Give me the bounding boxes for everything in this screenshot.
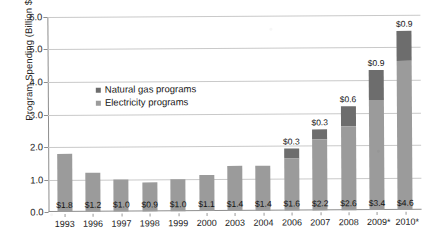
bar-column[interactable]: $1.8 (53, 17, 74, 212)
x-tick-mark (320, 212, 321, 215)
bar-segment-electricity[interactable]: $0.9 (142, 182, 157, 211)
bar-segment-electricity[interactable]: $1.2 (85, 173, 100, 212)
bar-segment-electricity[interactable]: $1.0 (170, 179, 185, 212)
x-tick-mark (349, 212, 350, 215)
bar-column[interactable]: $0.9$3.4 (366, 15, 387, 210)
bar-value-label-electricity: $1.8 (56, 200, 73, 209)
x-tick-mark (292, 213, 293, 216)
x-tick-label: 2006 (282, 212, 302, 234)
bar-segment-electricity[interactable]: $1.6 (284, 158, 299, 210)
bar-value-label-electricity: $0.9 (141, 200, 158, 209)
bar-value-label-electricity: $1.4 (227, 199, 244, 208)
x-tick-label: 2003 (225, 213, 245, 235)
x-axis-labels: 1993199619971998199920002003200420062007… (49, 212, 422, 236)
bar-column[interactable]: $0.3$1.6 (281, 15, 302, 210)
y-tick-label: 5.0 (29, 45, 42, 55)
bar-segment-electricity[interactable]: $3.4 (369, 99, 385, 210)
bar-value-label-electricity: $3.4 (369, 198, 386, 207)
legend-label: Natural gas programs (105, 84, 196, 95)
x-tick-mark (405, 212, 406, 215)
bar-segment-natural-gas[interactable]: $0.6 (340, 106, 355, 126)
plot-area: 0.01.02.03.04.05.06.0 $1.8$1.2$1.0$0.9$1… (47, 15, 421, 212)
bar-value-label-natural-gas: $0.9 (396, 20, 413, 29)
bar-value-label-natural-gas: $0.3 (311, 118, 328, 127)
x-tick-label: 2004 (253, 213, 273, 235)
bar-column[interactable]: $0.9$4.6 (394, 15, 415, 210)
bar-column[interactable]: $0.9 (139, 16, 160, 211)
bar-value-label-electricity: $1.1 (198, 200, 215, 209)
bar-segment-electricity[interactable]: $2.2 (312, 139, 327, 211)
bar-value-label-electricity: $1.0 (113, 200, 130, 209)
bar-column[interactable]: $1.2 (82, 17, 103, 212)
legend-item[interactable]: Electricity programs (96, 97, 196, 109)
x-tick-mark (178, 213, 179, 216)
legend-swatch-icon (96, 88, 101, 93)
x-tick-label: 1993 (55, 214, 75, 236)
y-tick-label: 2.0 (30, 142, 43, 152)
y-tick-label: 3.0 (30, 110, 43, 120)
bar-segment-electricity[interactable]: $2.6 (341, 126, 357, 211)
bar-column[interactable]: $1.0 (167, 16, 188, 211)
x-tick-label: 2000 (197, 213, 217, 235)
x-tick-mark (235, 213, 236, 216)
chart-legend: Natural gas programsElectricity programs (96, 84, 197, 108)
x-tick-mark (150, 213, 151, 216)
bar-value-label-electricity: $4.6 (397, 198, 414, 207)
legend-swatch-icon (96, 101, 101, 106)
bar-segment-electricity[interactable]: $1.4 (227, 165, 242, 211)
bar-column[interactable]: $0.6$2.6 (337, 15, 358, 210)
x-tick-mark (377, 212, 378, 215)
bar-segment-electricity[interactable]: $4.6 (397, 60, 413, 210)
bar-column[interactable]: $1.0 (110, 17, 131, 212)
x-tick-label: 1996 (83, 214, 103, 236)
x-tick-mark (263, 213, 264, 216)
y-tick-label: 6.0 (29, 12, 42, 22)
bar-value-label-electricity: $1.2 (85, 200, 102, 209)
bar-value-label-electricity: $2.6 (340, 199, 357, 208)
bar-segment-electricity[interactable]: $1.4 (256, 165, 271, 211)
x-tick-label: 2008 (339, 212, 359, 234)
x-tick-label: 2009* (367, 212, 387, 234)
legend-label: Electricity programs (105, 97, 188, 108)
bar-column[interactable]: $0.3$2.2 (309, 15, 330, 210)
x-tick-mark (93, 214, 94, 217)
y-tick-label: 0.0 (30, 207, 43, 217)
bar-value-label-natural-gas: $0.3 (283, 138, 300, 147)
x-tick-mark (65, 214, 66, 217)
bar-series-group: $1.8$1.2$1.0$0.9$1.0$1.1$1.4$1.4$0.3$1.6… (47, 15, 421, 212)
y-tick-label: 1.0 (30, 175, 43, 185)
legend-item[interactable]: Natural gas programs (96, 84, 196, 96)
bar-value-label-electricity: $1.6 (283, 199, 300, 208)
x-tick-label: 2010* (395, 212, 415, 234)
bar-segment-natural-gas[interactable]: $0.3 (312, 129, 327, 139)
bar-segment-electricity[interactable]: $1.0 (114, 179, 129, 212)
bar-value-label-natural-gas: $0.9 (368, 59, 385, 68)
bar-value-label-electricity: $1.4 (255, 199, 272, 208)
y-tick-label: 4.0 (30, 77, 43, 87)
x-tick-label: 1998 (140, 213, 160, 235)
bar-segment-electricity[interactable]: $1.1 (199, 175, 214, 211)
bar-column[interactable]: $1.4 (252, 16, 273, 211)
bar-value-label-electricity: $2.2 (312, 199, 329, 208)
bar-segment-natural-gas[interactable]: $0.9 (369, 70, 384, 99)
bar-value-label-natural-gas: $0.6 (340, 95, 357, 104)
bar-segment-natural-gas[interactable]: $0.3 (284, 149, 299, 159)
x-tick-mark (121, 214, 122, 217)
x-tick-label: 1997 (111, 214, 131, 236)
x-tick-label: 1999 (168, 213, 188, 235)
bar-value-label-electricity: $1.0 (170, 200, 187, 209)
y-tick-mark (45, 212, 49, 213)
bar-column[interactable]: $1.1 (195, 16, 216, 211)
bar-segment-electricity[interactable]: $1.8 (57, 153, 72, 212)
x-tick-mark (207, 213, 208, 216)
bar-segment-natural-gas[interactable]: $0.9 (397, 31, 412, 60)
bar-column[interactable]: $1.4 (224, 16, 245, 211)
x-tick-label: 2007 (310, 212, 330, 234)
